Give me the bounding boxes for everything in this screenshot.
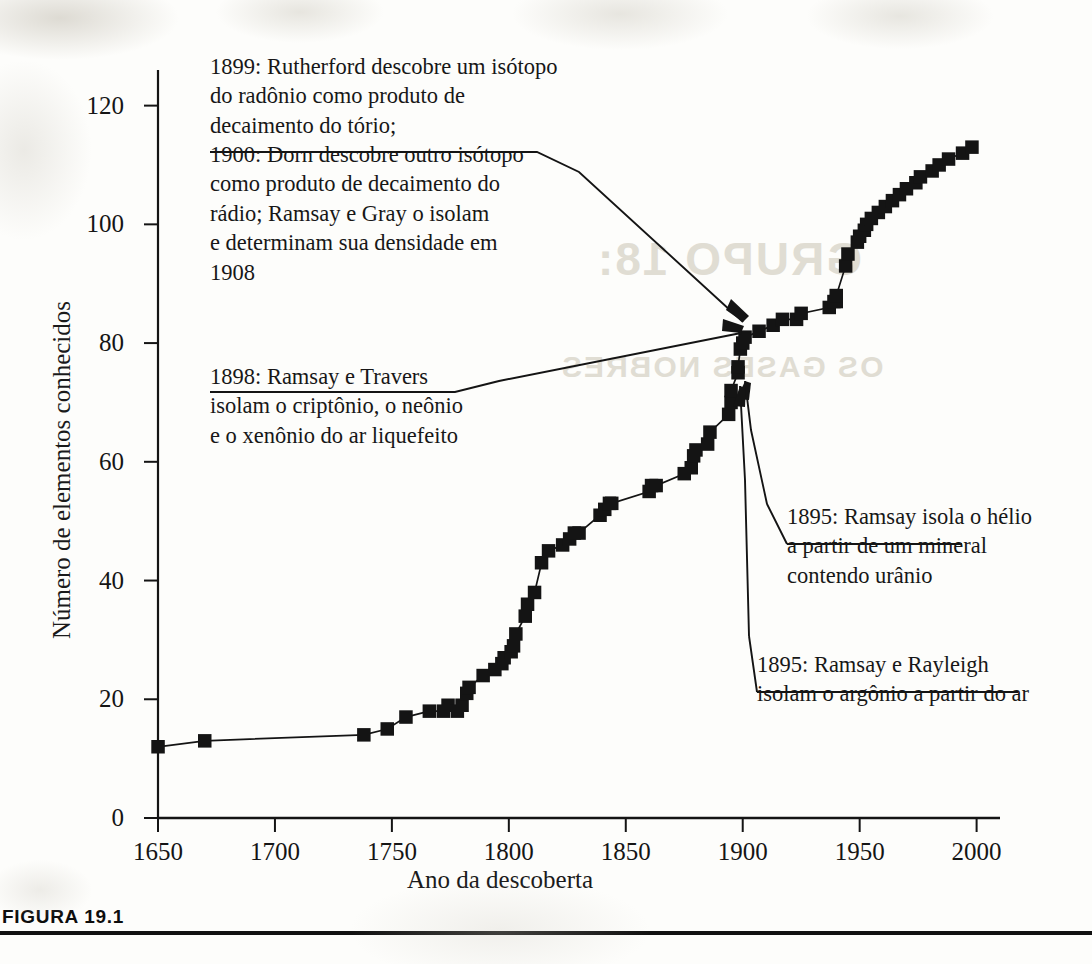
x-tick-label-1850: 1850 bbox=[601, 838, 651, 866]
data-point-marker bbox=[649, 479, 663, 493]
data-point-marker bbox=[399, 710, 413, 724]
y-tick-label-0: 0 bbox=[28, 804, 124, 832]
data-point-marker bbox=[830, 289, 844, 303]
figure-caption-label: FIGURA 19.1 bbox=[0, 906, 1092, 928]
data-point-marker bbox=[423, 704, 437, 718]
annotation-line: decaimento do tório; bbox=[210, 111, 620, 140]
annotation-line: a partir de um mineral bbox=[787, 531, 1077, 560]
y-tick-label-60: 60 bbox=[28, 448, 124, 476]
x-tick-label-1700: 1700 bbox=[250, 838, 300, 866]
annotation-line: 1899: Rutherford descobre um isótopo bbox=[210, 52, 620, 81]
data-point-marker bbox=[605, 497, 619, 511]
data-point-marker bbox=[519, 609, 533, 623]
data-point-marker bbox=[722, 408, 736, 422]
data-point-marker bbox=[776, 313, 790, 327]
annotation-line: do radônio como produto de bbox=[210, 81, 620, 110]
annotation-rutherford: 1899: Rutherford descobre um isótopodo r… bbox=[210, 52, 620, 287]
data-point-marker bbox=[476, 669, 490, 683]
annotation-helio: 1895: Ramsay isola o hélioa partir de um… bbox=[787, 502, 1077, 590]
data-point-marker bbox=[151, 740, 165, 754]
data-point-marker bbox=[357, 728, 371, 742]
y-tick-label-40: 40 bbox=[28, 567, 124, 595]
data-point-marker bbox=[724, 384, 738, 398]
data-point-marker bbox=[462, 681, 476, 695]
data-point-marker bbox=[535, 556, 549, 570]
y-tick-label-120: 120 bbox=[28, 92, 124, 120]
annotation-line: como produto de decaimento do bbox=[210, 169, 620, 198]
data-point-marker bbox=[572, 526, 586, 540]
annotation-line: e o xenônio do ar liquefeito bbox=[210, 421, 590, 450]
annotation-line: 1898: Ramsay e Travers bbox=[210, 362, 590, 391]
annotation-line: 1895: Ramsay isola o hélio bbox=[787, 502, 1077, 531]
data-point-marker bbox=[521, 598, 535, 612]
y-tick-label-20: 20 bbox=[28, 685, 124, 713]
figure-caption: FIGURA 19.1 bbox=[0, 906, 1092, 935]
data-point-marker bbox=[455, 699, 469, 713]
data-point-marker bbox=[703, 425, 717, 439]
annotation-travers: 1898: Ramsay e Traversisolam o criptônio… bbox=[210, 362, 590, 450]
data-point-marker bbox=[689, 443, 703, 457]
y-axis-title: Número de elementos conhecidos bbox=[48, 260, 76, 680]
data-point-marker bbox=[198, 734, 212, 748]
annotation-line: 1908 bbox=[210, 258, 620, 287]
data-point-marker bbox=[794, 307, 808, 321]
annotation-line: rádio; Ramsay e Gray o isolam bbox=[210, 199, 620, 228]
y-tick-label-100: 100 bbox=[28, 210, 124, 238]
data-point-marker bbox=[685, 461, 699, 475]
data-point-marker bbox=[381, 722, 395, 736]
annotation-line: isolam o argônio a partir do ar bbox=[757, 679, 1077, 708]
x-axis-title: Ano da descoberta bbox=[0, 866, 1000, 894]
annotation-line: contendo urânio bbox=[787, 561, 1077, 590]
annotation-line: e determinam sua densidade em bbox=[210, 228, 620, 257]
x-tick-label-1900: 1900 bbox=[718, 838, 768, 866]
x-tick-label-1950: 1950 bbox=[835, 838, 885, 866]
data-point-marker bbox=[965, 140, 979, 154]
data-point-marker bbox=[701, 437, 715, 451]
arrowhead-rutherford bbox=[726, 299, 749, 322]
annotation-line: 1895: Ramsay e Rayleigh bbox=[757, 650, 1077, 679]
y-tick-label-80: 80 bbox=[28, 329, 124, 357]
data-point-marker bbox=[841, 247, 855, 260]
figure-caption-rule bbox=[0, 931, 1092, 935]
annotation-line: isolam o criptônio, o neônio bbox=[210, 391, 590, 420]
data-point-marker bbox=[507, 639, 521, 653]
data-point-marker bbox=[509, 627, 522, 641]
data-point-marker bbox=[528, 586, 542, 600]
annotation-line: 1900: Dorn descobre outro isótopo bbox=[210, 140, 620, 169]
data-point-marker bbox=[914, 170, 928, 184]
annotation-argonio: 1895: Ramsay e Rayleighisolam o argônio … bbox=[757, 650, 1077, 709]
data-point-marker bbox=[942, 152, 956, 166]
x-tick-label-1750: 1750 bbox=[367, 838, 417, 866]
data-point-marker bbox=[542, 544, 556, 558]
x-tick-label-1800: 1800 bbox=[484, 838, 534, 866]
x-tick-label-1650: 1650 bbox=[133, 838, 183, 866]
x-tick-label-2000: 2000 bbox=[952, 838, 1002, 866]
data-point-marker bbox=[752, 325, 766, 339]
data-point-marker bbox=[731, 360, 745, 374]
data-point-marker bbox=[839, 259, 853, 273]
